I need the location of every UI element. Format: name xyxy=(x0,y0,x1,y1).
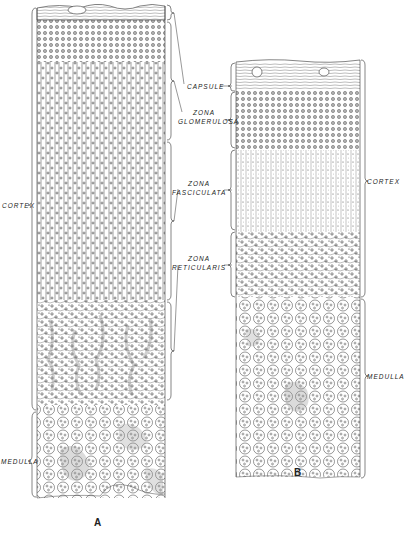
panel-a-left-braces xyxy=(28,8,36,497)
zona-reticularis-label: ZONA RETICULARIS xyxy=(172,254,226,272)
panel-a-cortex-label: CORTEX xyxy=(2,201,35,210)
zona-fasciculata-line1: ZONA xyxy=(172,179,226,188)
zona-reticularis-line1: ZONA xyxy=(172,254,226,263)
panel-b-left-braces xyxy=(228,63,235,297)
zona-glomerulosa-label: ZONA GLOMERULOSA xyxy=(178,108,230,126)
panel-b-cortex-label: CORTEX xyxy=(367,177,400,186)
panel-b-medulla-label: MEDULLA xyxy=(367,372,405,381)
panel-a-section xyxy=(37,4,165,498)
panel-b-right-braces xyxy=(361,60,368,478)
zona-reticularis-line2: RETICULARIS xyxy=(172,263,226,272)
zona-glomerulosa-line2: GLOMERULOSA xyxy=(178,117,230,126)
panel-a-right-braces xyxy=(167,5,174,400)
zona-fasciculata-line2: FASCICULATA xyxy=(172,188,226,197)
zona-fasciculata-label: ZONA FASCICULATA xyxy=(172,179,226,197)
panel-a-medulla-label: MEDULLA xyxy=(1,457,39,466)
panel-a-letter: A xyxy=(94,517,101,528)
panel-b-section xyxy=(236,60,360,478)
panel-b-letter: B xyxy=(294,467,301,478)
capsule-label: CAPSULE xyxy=(187,82,224,91)
zona-glomerulosa-line1: ZONA xyxy=(178,108,230,117)
